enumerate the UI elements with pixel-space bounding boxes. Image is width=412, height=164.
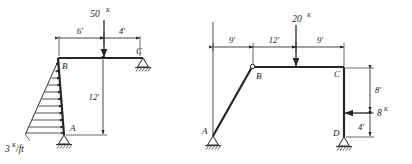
- right-dim-4ft: 4': [358, 122, 364, 132]
- right-load-value-20: 20: [292, 14, 302, 24]
- left-support-A: [56, 135, 72, 149]
- right-point-load-label-8k: 8 K: [377, 106, 389, 118]
- left-point-load-label: 50 K: [90, 7, 111, 19]
- right-joint-label-B: B: [256, 71, 262, 81]
- right-vertical-dimension-group: 8' 4': [346, 68, 381, 137]
- left-joint-label-A: A: [69, 123, 76, 133]
- left-dim-4ft: 4': [119, 26, 125, 36]
- right-load-value-8: 8: [377, 108, 382, 118]
- left-support-C: [135, 58, 151, 72]
- right-dim-12: 12': [269, 35, 280, 45]
- right-dim-8ft: 8': [375, 85, 381, 95]
- left-frame: 50 K 6' 4' B C A: [4, 7, 151, 154]
- left-dist-unit-den: /ft: [15, 144, 24, 154]
- right-joint-label-D: D: [332, 128, 340, 138]
- right-joint-label-C: C: [334, 69, 341, 79]
- right-dim-9b: 9': [317, 35, 323, 45]
- right-support-D: [336, 137, 352, 151]
- left-horizontal-dimension-group: 6' 4': [59, 26, 140, 56]
- right-point-load-label-20k: 20 K: [292, 12, 312, 24]
- left-dim-12ft: 12': [89, 92, 100, 102]
- right-frame: 20 K 9' 12' 9' B C A D: [201, 12, 389, 151]
- left-joint-label-B: B: [62, 61, 68, 71]
- right-hinge-B: [250, 64, 254, 68]
- left-dist-value: 3: [4, 144, 10, 154]
- left-distributed-load-envelope: [26, 60, 59, 134]
- left-distributed-load-leader: [25, 134, 30, 141]
- right-load-unit-8: K: [383, 106, 389, 112]
- right-support-A: [205, 136, 221, 150]
- left-distributed-load-label: 3 K /ft: [4, 142, 24, 154]
- diagram-canvas: 50 K 6' 4' B C A: [0, 0, 412, 164]
- left-load-value: 50: [90, 9, 100, 19]
- right-horizontal-dimension-group: 9' 12' 9': [213, 35, 344, 66]
- right-joint-label-A: A: [201, 126, 208, 136]
- left-joint-label-C: C: [136, 46, 143, 56]
- right-dim-9a: 9': [229, 35, 235, 45]
- right-member-AB: [213, 67, 252, 136]
- left-dim-6ft: 6': [77, 26, 83, 36]
- right-load-unit-20: K: [306, 12, 312, 18]
- left-load-unit: K: [105, 7, 111, 13]
